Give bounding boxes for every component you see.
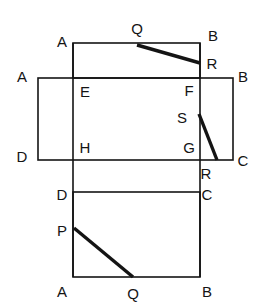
label-R-middle: R bbox=[201, 166, 212, 181]
crease-Q-R-top bbox=[137, 45, 200, 63]
label-Q-top: Q bbox=[131, 21, 143, 36]
label-C-middle: C bbox=[238, 153, 249, 168]
crease-S-R-middle bbox=[199, 114, 217, 160]
label-A-middle: A bbox=[17, 69, 27, 84]
label-D-bottom: D bbox=[57, 187, 68, 202]
middle-rectangle bbox=[38, 78, 233, 160]
label-R-top: R bbox=[207, 56, 218, 71]
label-Q-bottom: Q bbox=[127, 286, 139, 301]
label-F: F bbox=[184, 83, 193, 98]
label-B-top: B bbox=[208, 28, 218, 43]
geometry-figure bbox=[0, 0, 257, 308]
label-B-bottom: B bbox=[202, 284, 212, 299]
label-H: H bbox=[80, 140, 91, 155]
bottom-rectangle bbox=[73, 192, 200, 277]
diagram-canvas: AQBRABEFSHGDCRDCPAQB bbox=[0, 0, 257, 308]
label-A-bottom: A bbox=[57, 284, 67, 299]
label-G: G bbox=[183, 140, 195, 155]
label-D-middle: D bbox=[17, 149, 28, 164]
label-S: S bbox=[177, 110, 187, 125]
rectangle-group bbox=[38, 43, 233, 277]
label-P: P bbox=[57, 223, 67, 238]
label-E: E bbox=[80, 84, 90, 99]
label-C-bottom: C bbox=[202, 187, 213, 202]
label-A-top: A bbox=[57, 34, 67, 49]
label-B-middle: B bbox=[238, 69, 248, 84]
top-rectangle bbox=[73, 43, 200, 78]
crease-P-Q-bottom bbox=[74, 228, 133, 277]
